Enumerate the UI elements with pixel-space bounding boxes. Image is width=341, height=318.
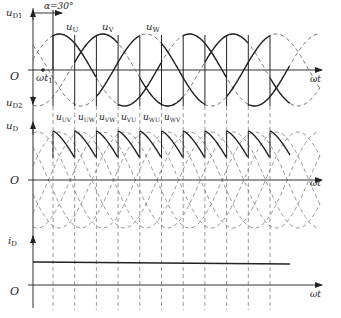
wt-top-label: ωt bbox=[310, 74, 321, 84]
uw-label: uW bbox=[146, 21, 160, 34]
origin-middle: O bbox=[10, 174, 19, 187]
ud2-label: uD2 bbox=[6, 97, 23, 110]
uuw-label: uUW bbox=[78, 112, 96, 123]
uwv-label: uWV bbox=[164, 112, 181, 123]
alpha-label: α=30° bbox=[44, 1, 74, 11]
uu-label: uU bbox=[66, 21, 78, 34]
origin-bottom: O bbox=[10, 285, 19, 298]
wt-middle-label: ωt bbox=[310, 178, 321, 188]
waveform-diagram: uD1 α=30° uU uV uW O ωt1 ωt uD2 uD uUV u… bbox=[0, 0, 341, 318]
ud1-label: uD1 bbox=[6, 7, 23, 20]
wt1-label: ωt1 bbox=[36, 72, 53, 85]
uuv-label: uUV bbox=[56, 112, 72, 123]
origin-top: O bbox=[10, 70, 19, 83]
ud-label: uD bbox=[6, 120, 18, 133]
id-label: iD bbox=[8, 235, 17, 248]
uvu-label: uVU bbox=[121, 112, 136, 123]
waveform-figure: uD1 α=30° uU uV uW O ωt1 ωt uD2 uD uUV u… bbox=[0, 0, 341, 318]
uv-label: uV bbox=[102, 21, 114, 34]
uvw-label: uVW bbox=[99, 112, 116, 123]
wt-bottom-label: ωt bbox=[310, 289, 321, 299]
uwu-label: uWU bbox=[143, 112, 160, 123]
